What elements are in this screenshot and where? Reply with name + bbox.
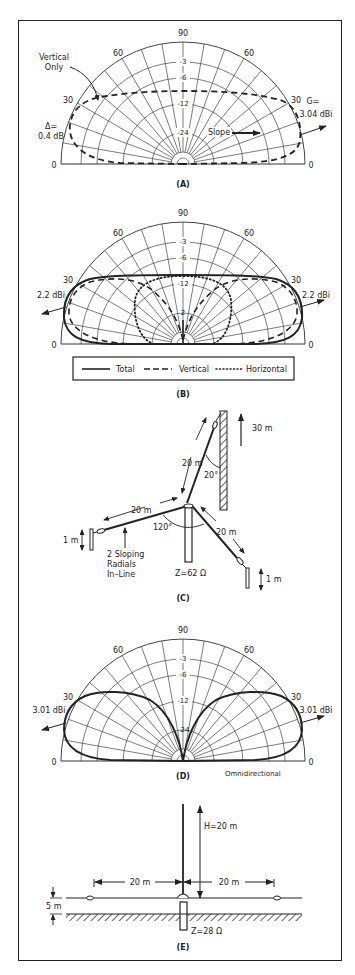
omnidirectional-note: Omnidirectional (225, 770, 281, 778)
vertical-only-label-line1: Vertical (39, 53, 69, 62)
angle-label-0-right: 0 (308, 341, 313, 350)
svg-text:-24: -24 (177, 129, 189, 137)
gain-label-line2: 3.04 dBi (299, 110, 332, 119)
angle-label-30-left: 30 (63, 693, 73, 702)
svg-text:-12: -12 (177, 697, 188, 705)
insulator-left (87, 896, 94, 900)
ring-label-24-partial: 24 (181, 726, 190, 734)
svg-text:-12: -12 (177, 100, 188, 108)
angle-label-30-right: 30 (291, 276, 301, 285)
gain-label-line1: G= (307, 97, 320, 106)
radial-angle-label: 120° (153, 523, 172, 532)
angle-label-30-right: 30 (291, 693, 301, 702)
gain-label-right: 3.01 dBi (299, 706, 332, 715)
angle-label-60-right: 60 (244, 229, 254, 238)
caption-c: (C) (176, 594, 189, 603)
radials-note-line2: Radials (107, 560, 136, 569)
insulator-left (97, 528, 106, 534)
insulator-right (236, 557, 244, 566)
svg-text:-6: -6 (180, 671, 188, 679)
slope-label: Slope (208, 128, 230, 137)
angle-label-60-right: 60 (244, 646, 254, 655)
gain-arrow-right-icon (300, 716, 324, 723)
left-length-label: 20 m (130, 878, 151, 887)
angle-label-90: 90 (178, 29, 188, 38)
angle-label-0-left: 0 (51, 341, 56, 350)
panel-a: 90 60 60 30 30 0 0 -3 -6 -12 -24 Vertica… (38, 29, 333, 189)
vertical-only-arrow-icon (70, 67, 98, 100)
panel-d: 90 60 60 30 30 0 0 -3 -6 -12 24 3.01 dBi… (32, 626, 332, 781)
caption-e: (E) (177, 943, 190, 952)
angle-label-90: 90 (178, 209, 188, 218)
svg-text:-3: -3 (180, 238, 187, 246)
panel-b: 90 60 60 30 30 0 0 -3 -6 -12 2 2.2 dBi 2… (37, 209, 330, 399)
height-label: H=20 m (204, 822, 237, 831)
delta-label-line2: 0.4 dB (38, 132, 64, 141)
gain-label-right: 2.2 dBi (302, 291, 330, 300)
legend-label-total: Total (115, 365, 135, 374)
radials-note-line1: 2 Sloping (107, 550, 144, 559)
radials-note-line3: In–Line (107, 570, 135, 579)
svg-text:-3: -3 (180, 58, 187, 66)
right-height-label: 1 m (266, 575, 282, 584)
angle-label-90: 90 (178, 626, 188, 635)
left-height-label: 1 m (63, 536, 79, 545)
insulator-top (212, 421, 218, 429)
angle-label-0-left: 0 (51, 161, 56, 170)
support-post-left (90, 529, 93, 550)
caption-a: (A) (176, 180, 190, 189)
impedance-label: Z=28 Ω (191, 927, 222, 936)
svg-text:-6: -6 (180, 254, 188, 262)
radial-right-length-label: 20 m (216, 528, 237, 537)
svg-text:-3: -3 (180, 655, 187, 663)
angle-label-60-left: 60 (113, 646, 123, 655)
angle-label-30-left: 30 (63, 276, 73, 285)
angle-label-0-left: 0 (51, 758, 56, 767)
figure-canvas: 90 60 60 30 30 0 0 -3 -6 -12 -24 Vertica… (0, 0, 355, 975)
gain-label-left: 3.01 dBi (32, 706, 65, 715)
gain-label-left: 2.2 dBi (37, 291, 65, 300)
coax-feedline (180, 902, 187, 930)
angle-label-0-right: 0 (308, 758, 313, 767)
sloper-length-label: 20 m (182, 459, 203, 468)
support-post-right (246, 568, 249, 588)
caption-b: (B) (176, 390, 189, 399)
legend: Total Vertical Horizontal (73, 357, 294, 380)
angle-label-0-right: 0 (308, 161, 313, 170)
vertical-only-label-line2: Only (45, 63, 64, 72)
angle-label-60-left: 60 (113, 229, 123, 238)
feed-point (177, 894, 189, 898)
sloper-angle-arc (206, 455, 221, 468)
angle-label-30-right: 30 (291, 96, 301, 105)
legend-label-vertical: Vertical (179, 365, 209, 374)
tower (220, 411, 227, 510)
gain-arrow-left-icon (42, 307, 66, 314)
svg-text:-12: -12 (177, 280, 188, 288)
radial-left-length-label: 20 m (131, 506, 152, 515)
delta-label-line1: Δ= (45, 122, 57, 131)
angle-label-60-right: 60 (244, 49, 254, 58)
svg-text:-6: -6 (180, 74, 188, 82)
gain-arrow-right-icon (300, 300, 324, 307)
panel-c: 30 m 20 m 20° 20 m 1 m 2 Sloping Radials… (63, 411, 282, 603)
caption-d: (D) (176, 772, 190, 781)
impedance-label: Z=62 Ω (175, 569, 206, 578)
insulator-right (274, 896, 281, 900)
gain-direction-arrow-icon (300, 126, 326, 135)
gain-arrow-left-icon (42, 723, 66, 730)
angle-label-30-left: 30 (63, 96, 73, 105)
elevation-label: 5 m (46, 902, 62, 911)
sloper-angle-label: 20° (204, 471, 218, 480)
tower-height-label: 30 m (252, 424, 273, 433)
legend-label-horizontal: Horizontal (246, 365, 287, 374)
coax-feedline (185, 506, 192, 562)
angle-label-60-left: 60 (113, 49, 123, 58)
right-length-label: 20 m (219, 878, 240, 887)
ring-label-24-partial: 2 (181, 309, 185, 317)
panel-e: H=20 m 20 m 20 m 5 m Z=28 Ω (E) (46, 804, 302, 952)
